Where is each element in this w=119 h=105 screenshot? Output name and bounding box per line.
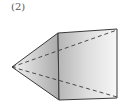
cone-face (12, 33, 59, 100)
prism-face (58, 29, 117, 100)
solid-diagram (0, 0, 119, 105)
